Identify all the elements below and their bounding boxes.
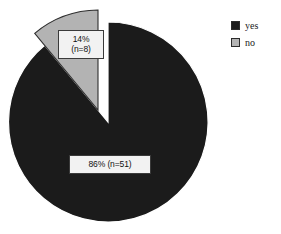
legend-swatch-yes-icon <box>231 21 240 30</box>
slice-label-no-count: (n=8) <box>61 44 101 54</box>
slice-label-no-percent: 14% <box>61 34 101 44</box>
legend-item-yes[interactable]: yes <box>231 19 279 32</box>
chart-legend: yes no <box>231 19 279 53</box>
legend-label-yes: yes <box>245 20 258 31</box>
pie-slice-yes[interactable] <box>8 22 208 222</box>
legend-item-no[interactable]: no <box>231 36 279 49</box>
legend-label-no: no <box>245 37 255 48</box>
slice-label-no: 14% (n=8) <box>58 30 104 59</box>
slice-label-yes-text: 86% (n=51) <box>72 159 148 169</box>
legend-swatch-no-icon <box>231 38 240 47</box>
slice-label-yes: 86% (n=51) <box>69 155 151 174</box>
pie-chart-figure: 14% (n=8) 86% (n=51) yes no <box>0 0 281 234</box>
